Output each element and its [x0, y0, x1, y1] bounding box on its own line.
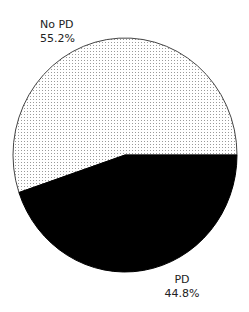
slice-label-no-pd-name: No PD — [40, 18, 75, 32]
slice-label-pd: PD 44.8% — [164, 273, 200, 301]
slice-label-pd-name: PD — [164, 273, 200, 287]
slice-label-no-pd-value: 55.2% — [40, 32, 75, 46]
pie-chart — [0, 0, 249, 312]
slice-label-no-pd: No PD 55.2% — [40, 18, 75, 46]
slice-label-pd-value: 44.8% — [164, 287, 200, 301]
